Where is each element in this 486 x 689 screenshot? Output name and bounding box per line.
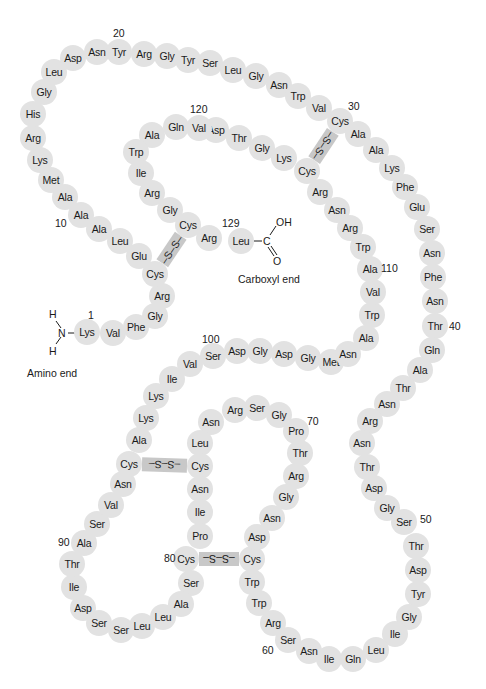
residue-107: Ala [353,325,379,351]
residue-label: Asn [378,399,396,410]
residue-label: Leu [233,236,250,247]
residue-18: Asp [60,45,86,71]
residue-label: Ala [77,538,92,549]
residue-number-100: 100 [202,334,220,345]
residue-label: Cys [179,220,196,231]
residue-label: Ala [359,333,374,344]
residue-68: Arg [283,463,309,489]
residue-number-110: 110 [381,263,398,274]
residue-label: Arg [144,188,160,199]
amino-h-bottom: H [49,346,57,357]
residue-label: Phe [127,322,145,333]
residue-117: Gly [249,135,275,161]
residue-label: Tyr [411,589,425,600]
residue-69: Thr [287,440,313,466]
residue-label: Leu [192,438,209,449]
residue-number-30: 30 [348,101,360,112]
residue-label: Trp [365,310,380,321]
residue-100: Ser [200,343,226,369]
residue-label: Met [43,175,60,186]
residue-label: Arg [136,49,152,60]
residue-label: Ser [202,58,218,69]
residue-label: Thr [408,541,423,552]
residue-56: Leu [363,637,389,663]
residue-label: Asn [114,479,132,490]
residue-label: Phe [424,272,442,283]
residue-number-120: 120 [190,104,208,115]
residue-label: Ser [205,351,221,362]
residue-number-80: 80 [164,553,176,564]
residue-label: Ser [419,224,435,235]
residue-label: Leu [368,645,385,656]
residue-label: Ile [167,374,178,385]
residue-label: Tyr [181,55,195,66]
residue-label: Ala [132,435,147,446]
residue-label: Ala [58,192,73,203]
residue-label: Asn [426,296,444,307]
residue-label: Pro [192,531,208,542]
residue-label: Glu [409,202,425,213]
disulfide-bridge-76-94: –S–S– [142,457,187,472]
residue-label: Gly [162,205,177,216]
residue-label: Thr [395,383,410,394]
residue-label: Ala [145,130,160,141]
residue-52: Asp [405,557,431,583]
residue-number-10: 10 [55,218,67,229]
residue-label: Cys [331,116,348,127]
residue-label: Asp [74,603,92,614]
residue-39: Asn [422,288,448,314]
residue-label: Lys [32,155,47,166]
carboxyl-end-label: Carboxyl end [238,274,300,285]
residue-118: Thr [226,125,252,151]
residue-label: Asn [423,248,441,259]
residue-label: Val [312,103,326,114]
residue-37: Asn [419,240,445,266]
carboxyl-oh: OH [276,217,292,228]
residue-label: Ala [369,145,384,156]
residue-label: Phe [396,182,414,193]
residue-24: Ser [197,50,223,76]
residue-label: Gly [271,410,286,421]
residue-label: Leu [225,65,242,76]
residue-104: Gly [295,345,321,371]
residue-label: Cys [298,166,315,177]
residue-label: Arg [312,187,328,198]
lysozyme-structure-diagram: –S–S––S–S––S–S––S–S– LysValPheGlyArgCysG… [0,0,486,689]
residue-label: Pro [288,426,304,437]
residue-label: Gly [379,503,394,514]
residue-number-50: 50 [420,514,432,525]
residue-label: Ile [69,582,80,593]
residue-label: Leu [134,621,151,632]
residue-label: Asp [228,346,246,357]
residue-label: Trp [291,91,306,102]
residue-label: Ala [413,365,428,376]
residue-64: Cys [239,546,265,572]
residue-46: Asn [349,430,375,456]
residue-label: Leu [46,67,63,78]
residue-label: Ile [195,507,206,518]
residue-label: Asp [248,532,266,543]
residue-label: Trp [356,242,371,253]
residue-label: Ser [249,403,265,414]
disulfide-bridge-64-80: –S–S– [199,552,239,566]
residue-label: Asp [365,483,383,494]
residue-94: Cys [116,451,142,477]
residue-label: Gly [252,346,267,357]
residue-label: Arg [362,416,378,427]
residue-25: Leu [220,57,246,83]
residue-1: Lys [74,319,100,345]
residue-79: Pro [187,523,213,549]
residue-label: Ile [390,629,401,640]
residue-label: Thr [427,321,442,332]
residue-label: Gly [300,353,315,364]
residue-80: Cys [173,546,199,572]
residue-label: Arg [342,223,358,234]
residue-label: Gly [401,612,416,623]
svg-text:–S–S–: –S–S– [148,459,180,472]
residue-label: Asn [300,646,318,657]
residue-label: Trp [245,577,260,588]
residue-36: Ser [414,216,440,242]
residue-102: Gly [247,338,273,364]
residue-label: Ala [92,224,107,235]
residue-20: Tyr [106,39,132,65]
